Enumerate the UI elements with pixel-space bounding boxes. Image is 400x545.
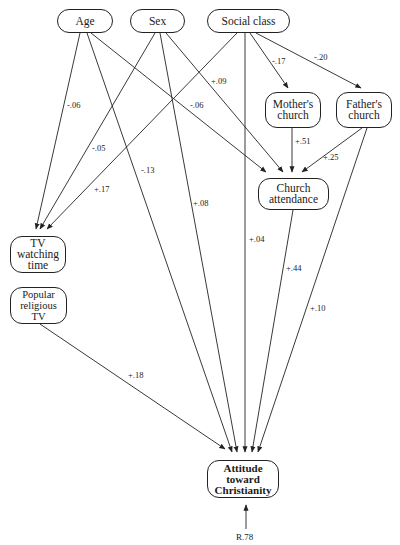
coef-sex-church: +.09 xyxy=(211,76,226,86)
node-tv-watching-time: TV watching time xyxy=(10,236,66,273)
coef-sc-mother: -.17 xyxy=(272,56,285,66)
node-popular-religious-tv: Popular religious TV xyxy=(10,287,67,324)
coef-sc-tv: +.17 xyxy=(94,184,109,194)
coef-father-attitude: +.10 xyxy=(310,303,325,313)
coef-sex-attitude: +.08 xyxy=(193,198,208,208)
coef-age-church: -.06 xyxy=(190,100,203,110)
edge-age-attitude xyxy=(87,33,232,452)
coef-sex-tv: -.05 xyxy=(92,143,105,153)
coef-father-church: +.25 xyxy=(323,152,338,162)
node-social-class: Social class xyxy=(207,9,290,33)
coef-sc-father: -.20 xyxy=(314,52,327,62)
edge-sex-attitude xyxy=(160,33,237,452)
coef-poptv-attitude: +.18 xyxy=(128,370,143,380)
edge-father-church xyxy=(302,128,362,172)
edge-age-church xyxy=(91,33,266,172)
node-sex: Sex xyxy=(130,9,185,33)
residual-label: R.78 xyxy=(236,532,253,542)
coef-age-tv: -.06 xyxy=(67,100,80,110)
edge-age-tv xyxy=(36,33,80,229)
node-age: Age xyxy=(57,9,113,33)
node-attitude-toward-christianity: Attitude toward Christianity xyxy=(207,460,279,498)
edge-poptv-attitude xyxy=(40,324,225,449)
edge-church-attitude xyxy=(252,210,293,452)
node-church-attendance: Church attendance xyxy=(258,178,329,210)
path-arrows xyxy=(0,0,400,545)
node-mothers-church: Mother's church xyxy=(265,92,321,128)
coef-sc-attitude: +.04 xyxy=(249,234,264,244)
node-fathers-church: Father's church xyxy=(336,92,392,128)
coef-age-attitude: -.13 xyxy=(141,165,154,175)
coef-mother-church: +.51 xyxy=(295,136,310,146)
edge-father-attitude xyxy=(258,128,367,452)
coef-church-attitude: +.44 xyxy=(286,263,301,273)
edge-sc-tv xyxy=(47,33,237,229)
